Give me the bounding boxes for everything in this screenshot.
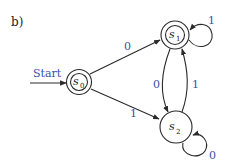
edge-label-s0-s2: 1 (130, 107, 137, 120)
state-s0-name: s (73, 75, 79, 88)
start-label: Start (33, 67, 62, 80)
state-s2-name: s (169, 120, 175, 133)
edge-label-s1-s2: 0 (153, 78, 160, 91)
edge-label-s2-s1: 1 (192, 78, 199, 91)
state-s1-name: s (169, 28, 175, 41)
state-s0-subscript: 0 (80, 82, 84, 90)
edge-s2-s1 (182, 49, 187, 112)
state-s1: s 1 (161, 21, 189, 49)
edge-s1-s2 (162, 49, 170, 112)
state-s2-subscript: 2 (176, 128, 180, 136)
panel-label: b) (11, 15, 23, 29)
edge-s0-s2 (91, 89, 159, 119)
edge-label-s1-s1: 1 (208, 14, 215, 27)
finite-state-machine-diagram: b) Start 0 1 0 1 1 0 s 0 s 1 s 2 (0, 0, 228, 168)
self-loop-s1 (189, 24, 212, 46)
state-s2: s 2 (160, 111, 192, 143)
edge-label-s0-s1: 0 (124, 40, 131, 53)
state-s1-subscript: 1 (176, 35, 180, 43)
edge-label-s2-s2: 0 (209, 149, 216, 162)
state-s0: s 0 (67, 70, 92, 95)
state-s2-ring (160, 111, 192, 143)
